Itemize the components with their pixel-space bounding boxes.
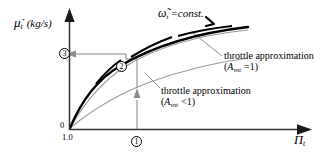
annotation-lower-throttle-line1: throttle approximation <box>161 85 251 96</box>
y-axis-label: μ̇t(kg/s) <box>14 16 52 32</box>
annotation-upper-throttle-line1: throttle approximation <box>224 50 314 61</box>
x-axis-label-subscript: t <box>303 139 305 148</box>
annotation-lower-var-relation: <1) <box>181 96 195 107</box>
annotation-lower-throttle-variable: (Avnt<1) <box>161 96 251 109</box>
omega-constant-label: ω̃t=const. <box>158 7 204 21</box>
y-axis-label-subscript: t <box>21 22 23 31</box>
vertical-projection-arrowhead <box>134 88 141 98</box>
operating-point-1-marker: 1 <box>131 136 142 147</box>
annotation-upper-throttle-variable: (Avnt=1) <box>224 61 314 74</box>
omega-value: =const. <box>170 7 203 19</box>
annotation-upper-throttle: throttle approximation (Avnt=1) <box>224 50 314 74</box>
x-axis-label-symbol: Π <box>294 133 303 147</box>
annotation-upper-var-relation: =1) <box>244 61 258 72</box>
y-axis-label-unit: (kg/s) <box>27 17 52 29</box>
x-axis-start-tick-label: 1.0 <box>62 133 73 143</box>
annotation-lower-var-subscript: vnt <box>170 101 178 108</box>
x-axis-label: Πt <box>294 133 305 149</box>
omega-subscript: t <box>166 13 168 20</box>
origin-tick-label: 0 <box>60 121 64 131</box>
turbine-mass-flow-diagram: μ̇t(kg/s) Πt 0 1.0 ω̃t=const. throttle a… <box>0 0 332 158</box>
operating-point-2-marker: 2 <box>116 61 127 72</box>
omega-label-pointer <box>206 17 214 26</box>
y-axis-arrowhead <box>64 8 74 22</box>
operating-point-3-marker: 3 <box>59 48 70 59</box>
construction-lines <box>66 32 222 130</box>
annotation-upper-var-subscript: vnt <box>233 66 241 73</box>
annotation-lower-throttle: throttle approximation (Avnt<1) <box>161 85 251 109</box>
